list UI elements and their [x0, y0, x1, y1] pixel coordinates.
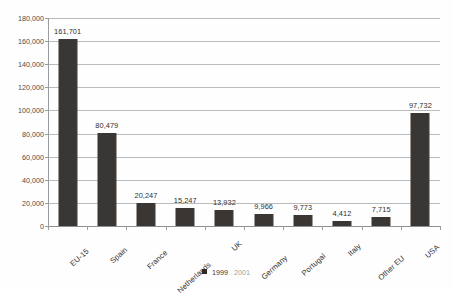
bar-slot: 9,966 — [244, 18, 283, 226]
y-tick-label: 20,000 — [1, 198, 44, 207]
bar-value-label: 97,732 — [409, 101, 432, 110]
bar-value-label: 15,247 — [174, 196, 197, 205]
bar-slot: 7,715 — [362, 18, 401, 226]
legend-label-2001: 2001 — [234, 268, 250, 277]
bar-value-label: 7,715 — [372, 205, 391, 214]
bar-value-label: 80,479 — [95, 121, 118, 130]
x-axis-category-label: Spain — [108, 245, 129, 265]
bar-value-label: 9,773 — [293, 203, 312, 212]
bar-value-label: 20,247 — [135, 191, 158, 200]
bar — [176, 208, 195, 226]
bar — [411, 113, 430, 226]
bar-value-label: 9,966 — [254, 202, 273, 211]
bar — [372, 217, 391, 226]
x-tick-mark — [440, 226, 441, 230]
x-axis-category-label: USA — [424, 243, 442, 260]
y-tick-label: 140,000 — [1, 60, 44, 69]
y-tick-label: 100,000 — [1, 106, 44, 115]
plot-area: 180,000160,000140,000120,000100,00080,00… — [48, 18, 440, 226]
bar — [254, 214, 273, 226]
bar — [58, 39, 77, 226]
bar — [136, 203, 155, 226]
bar — [293, 215, 312, 226]
y-tick-label: 60,000 — [1, 152, 44, 161]
bar-slot: 80,479 — [87, 18, 126, 226]
bar-series: 161,70180,47920,24715,24713,9329,9669,77… — [48, 18, 440, 226]
bar-slot: 9,773 — [283, 18, 322, 226]
x-axis-category-label: UK — [230, 239, 244, 253]
x-axis-category-label: Netherlands — [176, 260, 213, 295]
y-tick-label: 0 — [1, 222, 44, 231]
bar — [215, 210, 234, 226]
bar-slot: 161,701 — [48, 18, 87, 226]
bar-value-label: 161,701 — [54, 27, 81, 36]
bar-slot: 4,412 — [322, 18, 361, 226]
y-tick-label: 80,000 — [1, 129, 44, 138]
y-tick-label: 120,000 — [1, 83, 44, 92]
y-tick-label: 180,000 — [1, 14, 44, 23]
legend-label-1999: 1999 — [212, 268, 228, 277]
bar-slot: 15,247 — [166, 18, 205, 226]
chart-legend: 1999 2001 — [0, 268, 452, 277]
x-axis-category-label: EU-15 — [68, 247, 90, 268]
bar-value-label: 4,412 — [333, 209, 352, 218]
legend-inner: 1999 2001 — [202, 268, 250, 277]
bar-slot: 20,247 — [126, 18, 165, 226]
bar — [97, 133, 116, 226]
bar-slot: 97,732 — [401, 18, 440, 226]
y-tick-label: 40,000 — [1, 175, 44, 184]
x-axis-category-label: Italy — [346, 242, 363, 258]
bar-slot: 13,932 — [205, 18, 244, 226]
bar-value-label: 13,932 — [213, 198, 236, 207]
legend-swatch-1999 — [202, 269, 207, 274]
y-tick-label: 160,000 — [1, 37, 44, 46]
